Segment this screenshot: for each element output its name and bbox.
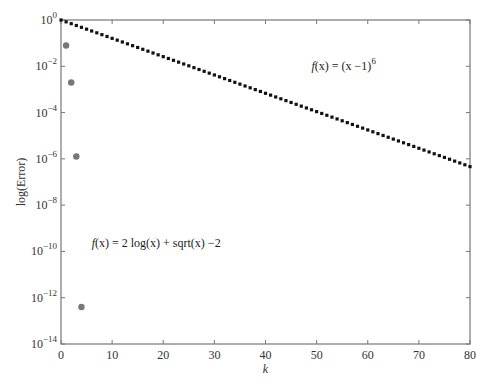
annotation-multiple-root: f(x) = (x −1)6 [312, 56, 377, 73]
x-tick-label: 40 [260, 348, 272, 362]
line-marker [315, 110, 318, 113]
line-marker [381, 134, 384, 137]
x-tick-label: 60 [362, 348, 374, 362]
line-marker [213, 73, 216, 76]
series-quadratic-root-line [59, 18, 471, 168]
line-marker [438, 154, 441, 157]
line-marker [325, 114, 328, 117]
line-marker [351, 123, 354, 126]
y-ticks: 10010−210−410−610−810−1010−1210−14 [31, 10, 470, 351]
line-marker [70, 22, 73, 25]
line-marker [249, 86, 252, 89]
line-marker [356, 125, 359, 128]
y-tick-label: 10−10 [31, 241, 58, 258]
line-marker [448, 158, 451, 161]
line-marker [412, 145, 415, 148]
line-marker [310, 108, 313, 111]
axes [61, 20, 470, 344]
y-tick-label: 10−8 [35, 195, 57, 212]
line-marker [136, 46, 139, 49]
x-tick-label: 0 [58, 348, 64, 362]
x-tick-label: 30 [208, 348, 220, 362]
x-tick-label: 20 [157, 348, 169, 362]
data-point [63, 42, 69, 48]
y-tick-label: 10−14 [31, 334, 58, 351]
line-marker [295, 103, 298, 106]
line-marker [141, 48, 144, 51]
line-marker [433, 152, 436, 155]
line-marker [320, 112, 323, 115]
line-marker [458, 161, 461, 164]
line-marker [111, 37, 114, 40]
line-marker [65, 20, 68, 23]
line-marker [422, 149, 425, 152]
line-marker [157, 53, 160, 56]
line-marker [346, 121, 349, 124]
line-marker [259, 90, 262, 93]
line-marker [305, 106, 308, 109]
line-marker [274, 95, 277, 98]
line-marker [238, 83, 241, 86]
y-tick-label: 100 [41, 10, 58, 27]
line-marker [121, 40, 124, 43]
x-ticks: 01020304050607080 [58, 20, 476, 362]
line-marker [218, 75, 221, 78]
line-marker [182, 62, 185, 65]
line-marker [167, 57, 170, 60]
line-marker [453, 160, 456, 163]
line-marker [335, 117, 338, 120]
annotation-log-sqrt: f(x) = 2 log(x) + sqrt(x) −2 [92, 236, 221, 250]
line-marker [208, 72, 211, 75]
line-marker [223, 77, 226, 80]
line-marker [417, 147, 420, 150]
line-marker [443, 156, 446, 159]
line-marker [90, 29, 93, 32]
line-marker [243, 84, 246, 87]
line-marker [279, 97, 282, 100]
annotation-multiple-root-body: (x) = (x −1) [315, 59, 372, 73]
data-point [68, 79, 74, 85]
x-tick-label: 10 [106, 348, 118, 362]
y-tick-label: 10−12 [31, 288, 57, 305]
line-marker [59, 18, 62, 21]
y-axis-label: log(Error) [14, 158, 28, 207]
line-marker [463, 163, 466, 166]
line-marker [407, 143, 410, 146]
line-marker [203, 70, 206, 73]
line-marker [402, 141, 405, 144]
line-marker [95, 31, 98, 34]
y-tick-label: 10−6 [35, 149, 57, 166]
line-marker [192, 66, 195, 69]
x-tick-label: 80 [464, 348, 476, 362]
line-marker [376, 132, 379, 135]
y-tick-label: 10−4 [35, 103, 57, 120]
line-marker [387, 136, 390, 139]
line-marker [289, 101, 292, 104]
line-marker [85, 28, 88, 31]
line-marker [397, 139, 400, 142]
line-marker [468, 165, 471, 168]
line-marker [366, 128, 369, 131]
line-marker [361, 127, 364, 130]
annotation-multiple-root-exponent: 6 [371, 56, 376, 66]
line-marker [269, 94, 272, 97]
line-marker [392, 138, 395, 141]
series-log-sqrt-points [63, 42, 85, 310]
data-point [73, 153, 79, 159]
line-marker [428, 150, 431, 153]
line-marker [264, 92, 267, 95]
line-marker [80, 26, 83, 29]
line-marker [162, 55, 165, 58]
line-marker [177, 61, 180, 64]
annotation-log-sqrt-body: (x) = 2 log(x) + sqrt(x) −2 [95, 236, 221, 250]
chart: 01020304050607080 10010−210−410−610−810−… [0, 0, 496, 390]
line-marker [233, 81, 236, 84]
x-axis-label: k [263, 362, 269, 376]
line-marker [75, 24, 78, 27]
line-marker [341, 119, 344, 122]
line-marker [146, 50, 149, 53]
line-marker [228, 79, 231, 82]
line-marker [254, 88, 257, 91]
line-marker [151, 51, 154, 54]
line-marker [284, 99, 287, 102]
